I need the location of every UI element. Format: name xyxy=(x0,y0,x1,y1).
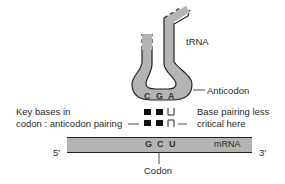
key-bases-label-line1: Key bases in xyxy=(16,106,70,117)
anticodon-base-2: G xyxy=(156,91,163,101)
anticodon-base-1: C xyxy=(144,91,151,101)
trna-label: tRNA xyxy=(186,36,209,47)
five-prime-label: 5′ xyxy=(53,147,60,158)
trna-shape xyxy=(132,6,192,100)
wobble-pair-brackets xyxy=(168,108,174,127)
anticodon-label: Anticodon xyxy=(207,85,249,96)
key-base-squares xyxy=(144,109,163,126)
three-prime-label: 3′ xyxy=(259,147,266,158)
codon-base-2: C xyxy=(157,139,164,149)
codon-base-1: G xyxy=(145,139,152,149)
less-critical-label-line2: critical here xyxy=(197,118,246,129)
codon-label: Codon xyxy=(144,165,172,176)
anticodon-base-3: A xyxy=(168,91,175,101)
codon-base-3: U xyxy=(169,139,176,149)
less-critical-label-line1: Base pairing less xyxy=(197,106,269,117)
mrna-label: mRNA xyxy=(214,139,241,150)
key-bases-label-line2: codon : anticodon pairing xyxy=(16,118,122,129)
